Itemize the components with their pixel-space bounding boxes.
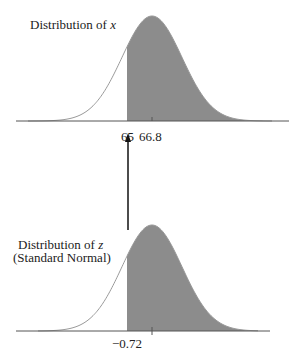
normal-curves-diagram — [0, 0, 300, 363]
bottom-cut-label: −0.72 — [112, 336, 142, 352]
transform-arrow — [125, 133, 131, 230]
top-title-var: x — [110, 17, 116, 32]
top-chart-title: Distribution of x — [30, 17, 116, 33]
top-cut-label: 65 — [121, 129, 134, 145]
top-title-text: Distribution of — [30, 17, 110, 32]
bottom-chart-subtitle: (Standard Normal) — [13, 251, 111, 264]
top-mean-label: 66.8 — [139, 129, 162, 145]
